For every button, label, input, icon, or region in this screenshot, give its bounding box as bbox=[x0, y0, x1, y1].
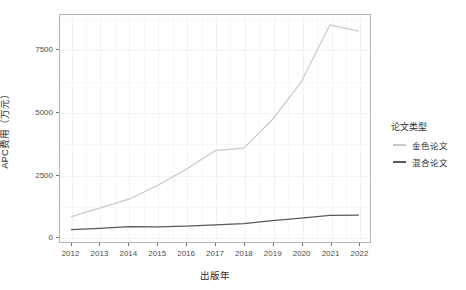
x-tick-mark bbox=[359, 243, 360, 246]
x-tick-label: 2020 bbox=[293, 249, 311, 258]
x-tick-label: 2022 bbox=[351, 249, 369, 258]
x-tick-mark bbox=[302, 243, 303, 246]
x-axis-title: 出版年 bbox=[200, 268, 230, 282]
x-tick-mark bbox=[186, 243, 187, 246]
series-line-混合论文 bbox=[71, 215, 358, 229]
y-tick-mark bbox=[56, 175, 59, 176]
y-tick-mark bbox=[56, 49, 59, 50]
y-axis-title: APC费用（万元） bbox=[0, 89, 11, 169]
y-tick-label: 0 bbox=[49, 233, 53, 242]
y-tick-mark bbox=[56, 237, 59, 238]
x-tick-label: 2019 bbox=[264, 249, 282, 258]
x-tick-mark bbox=[215, 243, 216, 246]
legend-title: 论文类型 bbox=[391, 120, 463, 133]
x-tick-label: 2018 bbox=[235, 249, 253, 258]
x-tick-label: 2017 bbox=[206, 249, 224, 258]
x-tick-mark bbox=[157, 243, 158, 246]
x-tick-label: 2015 bbox=[148, 249, 166, 258]
line-chart: 0250050007500 20122013201420152016201720… bbox=[0, 0, 466, 290]
y-tick-label: 5000 bbox=[35, 107, 53, 116]
x-tick-mark bbox=[244, 243, 245, 246]
legend-item[interactable]: 金色论文 bbox=[393, 139, 463, 151]
x-tick-label: 2012 bbox=[62, 249, 80, 258]
x-tick-mark bbox=[128, 243, 129, 246]
x-tick-mark bbox=[331, 243, 332, 246]
legend-items: 金色论文混合论文 bbox=[391, 139, 463, 168]
x-tick-mark bbox=[99, 243, 100, 246]
y-tick-label: 2500 bbox=[35, 170, 53, 179]
x-tick-label: 2021 bbox=[322, 249, 340, 258]
legend-line-swatch bbox=[393, 161, 406, 162]
legend-item[interactable]: 混合论文 bbox=[393, 156, 463, 168]
y-tick-label: 7500 bbox=[35, 45, 53, 54]
x-tick-label: 2013 bbox=[91, 249, 109, 258]
x-tick-label: 2016 bbox=[177, 249, 195, 258]
legend-item-label: 混合论文 bbox=[412, 156, 448, 168]
legend: 论文类型 金色论文混合论文 bbox=[391, 120, 463, 173]
x-tick-mark bbox=[273, 243, 274, 246]
x-tick-mark bbox=[71, 243, 72, 246]
y-tick-mark bbox=[56, 112, 59, 113]
series-line-金色论文 bbox=[71, 25, 358, 217]
legend-line-swatch bbox=[393, 144, 406, 145]
plot-panel bbox=[59, 14, 371, 243]
legend-item-label: 金色论文 bbox=[412, 139, 448, 151]
x-tick-label: 2014 bbox=[119, 249, 137, 258]
series-layer bbox=[60, 15, 370, 242]
